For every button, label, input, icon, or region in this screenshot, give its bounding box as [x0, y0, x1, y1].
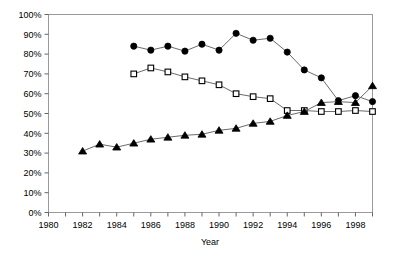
open-square-series-marker: [165, 69, 171, 75]
filled-circle-series-marker: [267, 35, 273, 41]
open-square-series-marker: [336, 109, 342, 115]
y-tick-label: 60%: [23, 89, 41, 99]
x-tick-label: 1984: [107, 220, 127, 230]
x-tick-label: 1990: [209, 220, 229, 230]
y-tick-label: 40%: [23, 129, 41, 139]
y-tick-label: 20%: [23, 168, 41, 178]
filled-circle-series-marker: [165, 43, 171, 49]
y-tick-label: 0%: [28, 208, 41, 218]
open-square-series-marker: [319, 109, 325, 115]
filled-circle-series-marker: [131, 43, 137, 49]
filled-circle-series-marker: [216, 47, 222, 53]
filled-circle-series-marker: [199, 41, 205, 47]
chart-container: 0%10%20%30%40%50%60%70%80%90%100% 198019…: [0, 0, 393, 260]
filled-circle-series-marker: [284, 49, 290, 55]
filled-circle-series-marker: [369, 99, 375, 105]
y-tick-label: 100%: [18, 10, 41, 20]
x-tick-label: 1994: [277, 220, 297, 230]
filled-circle-series-marker: [318, 75, 324, 81]
filled-circle-series-marker: [148, 47, 154, 53]
x-tick-label: 1988: [175, 220, 195, 230]
open-square-series-marker: [267, 96, 273, 102]
open-square-series-marker: [182, 74, 188, 80]
x-tick-label: 1992: [243, 220, 263, 230]
y-tick-label: 90%: [23, 30, 41, 40]
open-square-series-marker: [353, 108, 359, 114]
open-square-series-marker: [131, 71, 137, 77]
open-square-series-marker: [233, 91, 239, 97]
x-tick-label: 1982: [73, 220, 93, 230]
y-tick-label: 80%: [23, 49, 41, 59]
y-tick-label: 10%: [23, 188, 41, 198]
filled-circle-series-marker: [352, 93, 358, 99]
filled-circle-series-marker: [182, 48, 188, 54]
x-tick-label: 1998: [345, 220, 365, 230]
y-tick-label: 30%: [23, 148, 41, 158]
line-chart: 0%10%20%30%40%50%60%70%80%90%100% 198019…: [0, 0, 393, 260]
open-square-series-marker: [199, 78, 205, 84]
open-square-series-marker: [148, 65, 154, 71]
open-square-series-marker: [216, 82, 222, 88]
y-tick-label: 70%: [23, 69, 41, 79]
x-tick-label: 1980: [38, 220, 58, 230]
x-axis-title: Year: [201, 237, 219, 247]
x-tick-label: 1996: [311, 220, 331, 230]
filled-circle-series-marker: [233, 30, 239, 36]
filled-circle-series-marker: [250, 37, 256, 43]
open-square-series-marker: [370, 109, 376, 115]
open-square-series-marker: [250, 94, 256, 100]
y-tick-label: 50%: [23, 109, 41, 119]
x-tick-label: 1986: [141, 220, 161, 230]
filled-circle-series-marker: [301, 67, 307, 73]
